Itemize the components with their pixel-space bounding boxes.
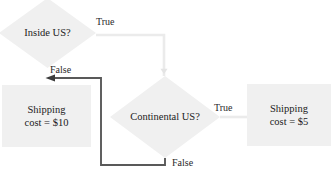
shipping-cost-10-line2: cost = $10 (25, 117, 69, 128)
shipping-cost-10-line1: Shipping (28, 104, 66, 115)
flowchart-canvas: Inside US? Continental US? Shipping cost… (0, 0, 335, 179)
process-shipping-cost-10-label: Shipping cost = $10 (25, 103, 69, 130)
edge-label-true-top: True (96, 17, 115, 27)
process-shipping-cost-10[interactable]: Shipping cost = $10 (2, 85, 91, 147)
decision-inside-us-label: Inside US? (24, 27, 70, 39)
process-shipping-cost-5-label: Shipping cost = $5 (270, 102, 309, 129)
edge-label-true-right: True (214, 103, 233, 113)
edge-label-false-bottom: False (172, 158, 193, 168)
edge-label-false-left: False (50, 65, 71, 75)
shipping-cost-5-line1: Shipping (270, 103, 308, 114)
process-shipping-cost-5[interactable]: Shipping cost = $5 (247, 84, 331, 146)
edge-inside-us-true (96, 35, 168, 76)
shipping-cost-5-line2: cost = $5 (270, 116, 309, 127)
decision-continental-us-label: Continental US? (130, 111, 200, 123)
